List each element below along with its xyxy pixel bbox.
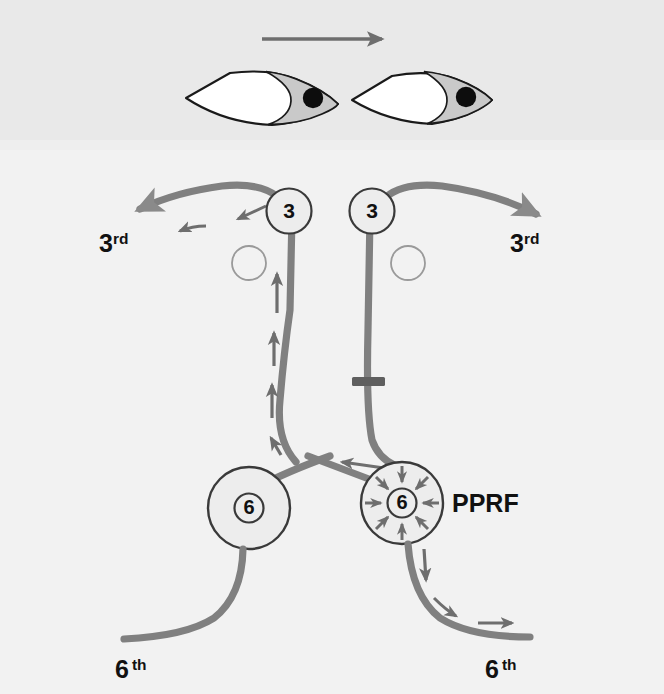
open-circle-left (232, 246, 266, 280)
band-transition (0, 140, 664, 150)
abducens-left-label: 6 (243, 496, 254, 518)
figure-canvas: 6 6 (0, 0, 664, 694)
abducens-nucleus-left: 6 (208, 467, 290, 549)
gaze-pathway-diagram: 6 6 (0, 0, 664, 694)
abducens-right-label: 6 (396, 491, 407, 513)
oculomotor-nucleus-left: 3 (267, 189, 312, 234)
eye-panel-band (0, 0, 664, 146)
oculomotor-right-label: 3 (366, 199, 378, 222)
pprf-label: PPRF (452, 489, 519, 517)
right-eye-pupil (456, 87, 476, 107)
abducens-nucleus-right: 6 (361, 462, 443, 544)
left-eye-pupil (303, 88, 323, 108)
inhibitory-synapse-marker (352, 377, 385, 386)
oculomotor-nucleus-right: 3 (350, 189, 395, 234)
oculomotor-left-label: 3 (283, 199, 295, 222)
open-circle-right (391, 246, 425, 280)
